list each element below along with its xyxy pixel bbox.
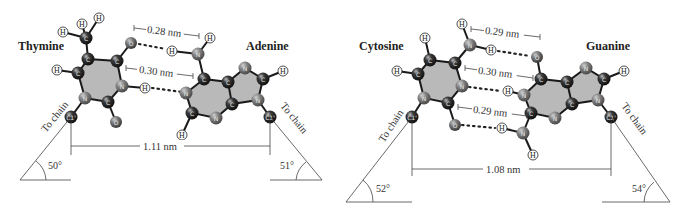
svg-text:N: N [553,115,558,122]
svg-text:C1': C1' [66,114,76,121]
angle-label-left: 50° [48,160,62,171]
svg-text:C: C [570,101,574,108]
svg-text:H: H [96,14,102,23]
svg-text:N: N [243,65,248,72]
svg-text:N: N [184,90,189,97]
svg-text:C: C [416,71,420,78]
svg-text:C: C [115,58,119,65]
angle-label-left: 52° [376,183,390,194]
svg-text:H: H [79,20,85,29]
svg-text:H: H [142,84,148,93]
svg-text:H: H [54,66,60,75]
svg-text:C: C [190,110,194,117]
distance-label-top: 0.28 nm [146,24,182,39]
svg-text:O: O [129,40,134,47]
svg-text:O: O [453,122,458,129]
svg-text:O: O [114,119,119,126]
svg-text:H: H [179,131,185,140]
c1-distance-label: 1.11 nm [143,141,177,152]
svg-text:H: H [488,46,494,55]
svg-text:C: C [106,99,110,106]
angle-label-right: 51° [280,160,294,171]
distance-label-bottom: 0.29 nm [472,104,508,119]
angle-label-right: 54° [632,183,646,194]
svg-text:H: H [394,67,400,76]
svg-text:N: N [256,97,261,104]
to-chain-label-right: To chain [278,100,310,136]
svg-text:N: N [83,95,88,102]
svg-text:H: H [280,67,286,76]
svg-text:H: H [169,47,175,56]
svg-text:C: C [539,76,543,83]
svg-text:C: C [446,100,450,107]
svg-text:C: C [86,56,90,63]
base-label-guanine: Guanine [586,39,631,53]
c1-distance-label: 1.08 nm [486,164,520,175]
to-chain-label-right: To chain [619,101,650,137]
svg-text:C: C [76,70,80,77]
base-label-cytosine: Cytosine [359,39,404,53]
svg-text:N: N [196,51,201,58]
svg-text:H: H [459,20,465,29]
svg-text:N: N [120,83,125,90]
svg-text:H: H [207,34,213,43]
svg-text:C: C [230,101,234,108]
svg-text:H: H [505,87,511,96]
svg-text:N: N [460,83,465,90]
svg-text:C1': C1' [407,114,417,121]
svg-text:N: N [522,92,527,99]
svg-text:H: H [499,124,505,133]
svg-text:C: C [565,79,569,86]
to-chain-label-left: To chain [376,107,405,144]
distance-label-middle: 0.30 nm [477,65,513,80]
base-label-thymine: Thymine [18,39,65,53]
svg-text:C: C [84,35,88,42]
thymine-adenine-pair: C C N C N C C O O C1' H H H H H C C C N … [18,13,322,180]
svg-text:C: C [529,110,533,117]
svg-text:C: C [226,79,230,86]
base-pair-diagram: C C N C N C C O O C1' H H H H H C C C N … [0,0,687,212]
svg-text:C: C [453,60,457,67]
svg-text:N: N [521,130,526,137]
svg-text:C: C [261,76,265,83]
svg-text:H: H [530,151,536,160]
svg-text:H: H [422,34,428,43]
svg-text:H: H [60,28,66,37]
base-label-adenine: Adenine [246,39,289,53]
svg-text:O: O [535,54,540,61]
cytosine-guanine-pair: C C N C N C N O C1' H H H H O C C C N C … [346,19,670,202]
distance-label-top: 0.29 nm [484,25,520,40]
svg-text:N: N [214,115,219,122]
svg-text:C: C [428,57,432,64]
svg-text:N: N [596,97,601,104]
svg-text:N: N [584,65,589,72]
svg-text:C: C [602,76,606,83]
svg-text:N: N [468,42,473,49]
svg-text:C: C [202,76,206,83]
distance-label-middle: 0.30 nm [138,64,174,79]
svg-text:N: N [422,95,427,102]
svg-text:H: H [621,67,627,76]
